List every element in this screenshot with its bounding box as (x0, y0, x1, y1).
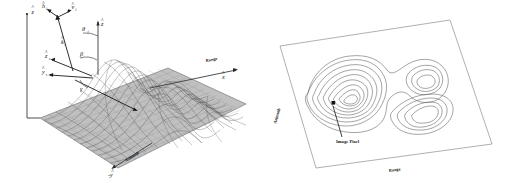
label-v-i-subscript: i (75, 7, 76, 12)
hat-z-unit: ^ (101, 17, 104, 23)
label-y-s-subscript: s (46, 72, 48, 77)
hat-z-axis-vertical: ^ (32, 4, 35, 10)
label-angle-theta-i-subscript: i (88, 29, 89, 34)
panel-left-3d-surface: z ^ h i ^ v i ^ k i ^ (0, 0, 256, 183)
image-pixel-marker (332, 101, 343, 137)
label-range-axis: Range (205, 56, 218, 63)
label-angle-beta: β (79, 50, 84, 57)
hat-minus-y-unit: ^ (111, 168, 114, 174)
label-k-i-subscript: i (65, 42, 66, 47)
label-azimuth-axis-right: Azimuth (272, 107, 281, 124)
incident-wave-vector-group (47, 9, 73, 71)
label-range-axis-right: Range (388, 166, 400, 173)
label-h-i-subscript: i (46, 6, 47, 11)
contour-lobe-lower-right (391, 94, 454, 134)
label-z-s-subscript: s (49, 56, 51, 61)
contour-lobe-upper-right (406, 65, 443, 95)
label-image-pixel: Image Pixel (336, 139, 360, 144)
local-normal-vector-group (50, 58, 92, 76)
label-angle-theta-i: θ (82, 25, 85, 32)
label-angle-gamma: γ (80, 85, 83, 92)
figure-root: z ^ h i ^ v i ^ k i ^ (0, 0, 513, 183)
global-z-unit-vector-group (96, 21, 99, 76)
surface-plot-svg: z ^ h i ^ v i ^ k i ^ (0, 0, 256, 183)
vertical-z-axis (26, 13, 40, 118)
contour-lobe-main (307, 60, 387, 126)
contour-plot-svg: Image Pixel Azimuth Range (256, 0, 513, 183)
hat-z-s: ^ (45, 49, 48, 55)
angle-arc-theta-i (83, 33, 98, 36)
panel-right-contour: Image Pixel Azimuth Range (256, 0, 513, 183)
angle-arc-beta (80, 57, 97, 60)
